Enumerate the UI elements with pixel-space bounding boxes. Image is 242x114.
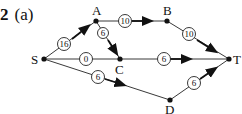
node-label: B (163, 3, 172, 18)
node-label: A (92, 3, 102, 18)
node-A: A (92, 3, 102, 24)
node-label: D (165, 102, 174, 114)
node-S: S (31, 52, 47, 67)
node-D: D (165, 97, 174, 114)
node-T: T (226, 52, 241, 67)
node-label: T (233, 52, 241, 67)
edge-weight: 6 (162, 54, 167, 64)
edge-A-C: 6 (96, 21, 120, 59)
edge-S-C: 0 (44, 53, 120, 66)
edge-A-B: 10 (96, 15, 167, 28)
edge-weight: 10 (121, 16, 131, 26)
edge-B-T: 10 (167, 21, 229, 59)
edge-weight: 6 (192, 78, 197, 88)
edge-weight: 0 (84, 54, 89, 64)
node-label: S (31, 52, 38, 67)
node-B: B (163, 3, 172, 24)
edge-weight: 10 (185, 29, 195, 39)
node-label: C (115, 62, 124, 77)
edge-S-D: 6 (44, 59, 170, 100)
edge-C-T: 6 (120, 53, 229, 66)
node-C: C (115, 56, 124, 77)
edge-weight: 6 (101, 28, 106, 38)
edge-weight: 16 (60, 39, 70, 49)
network-diagram: 16 10 10 6 0 6 6 6 (0, 0, 242, 114)
edge-D-T: 6 (170, 59, 229, 100)
edge-weight: 6 (96, 72, 101, 82)
